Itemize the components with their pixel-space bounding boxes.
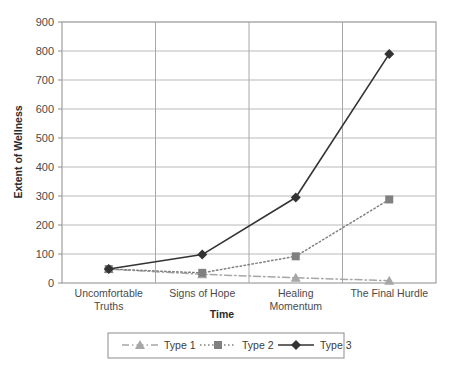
y-tick-label: 100 xyxy=(36,248,54,260)
x-tick-label: Signs of Hope xyxy=(169,287,235,299)
x-tick-label: Momentum xyxy=(269,300,322,312)
y-tick-label: 500 xyxy=(36,132,54,144)
y-tick-label: 800 xyxy=(36,45,54,57)
x-tick-label: The Final Hurdle xyxy=(350,287,428,299)
y-axis-title: Extent of Wellness xyxy=(12,105,24,198)
y-tick-label: 300 xyxy=(36,190,54,202)
y-tick-label: 0 xyxy=(48,277,54,289)
x-axis-title: Time xyxy=(210,308,234,320)
data-point-marker xyxy=(292,252,300,260)
y-tick-label: 200 xyxy=(36,219,54,231)
data-point-marker xyxy=(198,269,206,277)
x-tick-label: Uncomfortable xyxy=(75,287,143,299)
legend-label: Type 1 xyxy=(164,339,196,351)
plot-area xyxy=(58,22,436,285)
y-tick-label: 900 xyxy=(36,16,54,28)
y-tick-label: 600 xyxy=(36,103,54,115)
x-tick-label: Truths xyxy=(94,300,123,312)
chart-container: 0100200300400500600700800900 Extent of W… xyxy=(0,0,451,370)
x-tick-label: Healing xyxy=(278,287,314,299)
y-tick-label: 400 xyxy=(36,161,54,173)
wellness-line-chart: 0100200300400500600700800900 Extent of W… xyxy=(0,0,451,370)
data-point-marker xyxy=(214,341,222,349)
chart-legend: Type 1Type 2Type 3 xyxy=(108,333,352,358)
data-point-marker xyxy=(385,195,393,203)
legend-label: Type 3 xyxy=(320,339,352,351)
y-tick-label: 700 xyxy=(36,74,54,86)
legend-label: Type 2 xyxy=(242,339,274,351)
